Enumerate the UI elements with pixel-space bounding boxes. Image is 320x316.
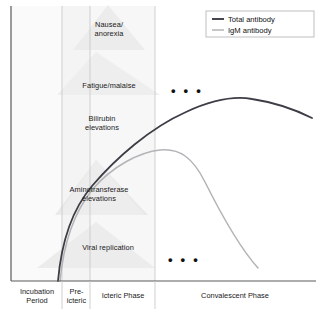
hepatitis-serology-chart: Total antibody IgM antibody Nausea/ anor… xyxy=(0,0,320,316)
band-convalescent xyxy=(155,6,315,281)
phase-label-preicteric: Pre- icteric xyxy=(63,287,90,306)
event-label-nausea: Nausea/ anorexia xyxy=(79,20,139,38)
phase-label-incubation: Incubation Period xyxy=(12,287,62,306)
legend-label-igm-antibody: IgM antibody xyxy=(228,26,271,35)
event-label-aminotransferase: Aminotransferase elevations xyxy=(54,185,144,203)
phase-label-icteric: Icteric Phase xyxy=(91,291,155,300)
phase-label-convalescent: Convalescent Phase xyxy=(156,291,314,300)
event-label-fatigue: Fatigue/malaise xyxy=(66,81,152,90)
band-incubation xyxy=(11,6,62,281)
continuation-dots-lower: • • • xyxy=(168,253,200,266)
continuation-dots-upper: • • • xyxy=(171,84,203,97)
event-label-bilirubin: Bilirubin elevations xyxy=(72,114,132,132)
chart-canvas xyxy=(0,0,320,316)
legend-label-total-antibody: Total antibody xyxy=(228,15,275,24)
event-label-viral-replication: Viral replication xyxy=(68,243,148,252)
